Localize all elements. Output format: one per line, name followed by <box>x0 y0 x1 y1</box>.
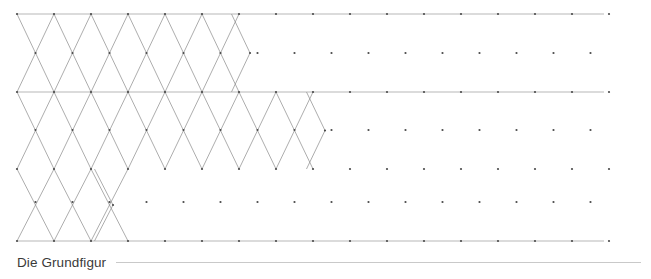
lattice-edge <box>147 92 166 131</box>
lattice-dot <box>145 52 147 54</box>
lattice-dot <box>571 168 573 170</box>
lattice-dot <box>534 168 536 170</box>
lattice-edge <box>91 14 110 53</box>
lattice-edge <box>276 92 295 131</box>
lattice-dot <box>219 52 221 54</box>
lattice-dot <box>201 91 203 93</box>
lattice-dot <box>608 240 610 242</box>
lattice-edge <box>36 14 55 53</box>
lattice-dot <box>441 129 443 131</box>
lattice-dot <box>238 91 240 93</box>
lattice-dot <box>571 13 573 15</box>
lattice-edge <box>184 131 203 170</box>
lattice-dot <box>256 201 258 203</box>
lattice-edge <box>147 14 166 53</box>
lattice-edge <box>202 14 221 53</box>
lattice-figure <box>0 0 651 279</box>
lattice-dot <box>367 52 369 54</box>
lattice-edge <box>202 53 221 92</box>
lattice-dot <box>589 201 591 203</box>
lattice-edge <box>147 131 166 170</box>
caption-divider <box>116 262 641 263</box>
lattice-dot <box>330 52 332 54</box>
lattice-edge <box>91 169 110 205</box>
lattice-edge <box>128 92 147 131</box>
lattice-dot <box>108 201 110 203</box>
lattice-lines <box>17 14 325 241</box>
lattice-dot <box>589 129 591 131</box>
lattice-dot <box>182 201 184 203</box>
lattice-dot <box>423 240 425 242</box>
lattice-edge <box>221 14 240 53</box>
lattice-edge <box>54 205 73 241</box>
lattice-dot <box>201 240 203 242</box>
lattice-edge <box>295 92 314 131</box>
lattice-dot <box>127 240 129 242</box>
lattice-dot <box>386 240 388 242</box>
lattice-dot <box>515 129 517 131</box>
lattice-edge <box>147 53 166 92</box>
lattice-edge <box>239 131 258 170</box>
lattice-edge <box>239 92 258 131</box>
lattice-dot <box>108 129 110 131</box>
lattice-edge <box>221 131 240 170</box>
lattice-dot <box>275 91 277 93</box>
lattice-dot <box>90 168 92 170</box>
lattice-dot <box>441 52 443 54</box>
lattice-dot <box>293 52 295 54</box>
lattice-dot <box>312 13 314 15</box>
lattice-dot <box>145 201 147 203</box>
lattice-dot <box>423 168 425 170</box>
lattice-edge <box>184 92 203 131</box>
lattice-edge <box>36 205 55 241</box>
lattice-dot <box>460 168 462 170</box>
lattice-dot <box>53 91 55 93</box>
lattice-dot <box>552 52 554 54</box>
lattice-dot <box>127 91 129 93</box>
lattice-dot <box>349 168 351 170</box>
lattice-dot <box>515 52 517 54</box>
lattice-cap-edge <box>307 131 326 170</box>
lattice-dot <box>182 52 184 54</box>
lattice-edge <box>17 205 36 241</box>
lattice-horizontal-rules <box>17 14 604 241</box>
lattice-dot <box>16 13 18 15</box>
lattice-edge <box>258 92 277 131</box>
lattice-dot <box>423 13 425 15</box>
lattice-dot <box>127 168 129 170</box>
lattice-dot <box>404 201 406 203</box>
lattice-dot <box>238 168 240 170</box>
lattice-dot <box>404 52 406 54</box>
lattice-edge <box>295 131 314 170</box>
lattice-dot <box>145 129 147 131</box>
lattice-cap-edge <box>95 205 114 241</box>
lattice-dot <box>497 91 499 93</box>
lattice-dot <box>34 52 36 54</box>
lattice-edge <box>54 131 73 170</box>
lattice-dot <box>460 240 462 242</box>
lattice-dot <box>16 240 18 242</box>
lattice-dot <box>515 201 517 203</box>
lattice-edge <box>73 14 92 53</box>
lattice-dot <box>478 201 480 203</box>
lattice-dot <box>571 240 573 242</box>
lattice-edge <box>91 92 110 131</box>
lattice-vertex-dot <box>249 52 251 54</box>
lattice-dot <box>182 129 184 131</box>
lattice-dot <box>238 240 240 242</box>
lattice-dot <box>330 129 332 131</box>
lattice-edge <box>17 131 36 170</box>
lattice-edge <box>36 169 55 205</box>
lattice-dot <box>552 201 554 203</box>
lattice-edge <box>110 53 129 92</box>
lattice-dot <box>53 240 55 242</box>
figure-page: Die Grundfigur <box>0 0 651 279</box>
caption-label: Die Grundfigur <box>17 255 106 271</box>
lattice-dot <box>256 129 258 131</box>
lattice-dot <box>34 201 36 203</box>
lattice-dot <box>608 91 610 93</box>
lattice-dot <box>441 201 443 203</box>
caption: Die Grundfigur <box>0 255 651 279</box>
lattice-edge <box>110 14 129 53</box>
lattice-dot <box>71 52 73 54</box>
